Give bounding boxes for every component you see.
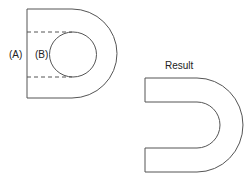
shape-b-circle [50,32,97,77]
diagram-canvas: (A) (B) Result [0,0,250,179]
label-result: Result [165,60,194,71]
label-a: (A) [9,49,22,60]
label-b: (B) [35,49,48,60]
result-shape-outline [145,78,243,172]
